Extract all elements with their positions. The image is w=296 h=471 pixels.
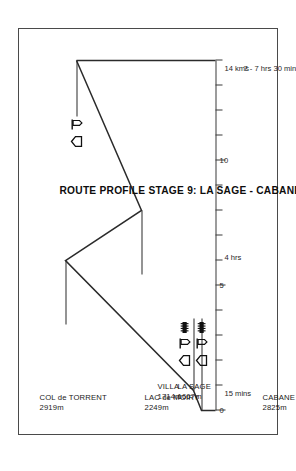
x-tick-4 <box>215 309 222 310</box>
signpost-icon <box>177 336 191 350</box>
mountain-hut-icon <box>176 352 192 368</box>
point-label-cabane-de-moiry: CABANE de MOIRY 2825m <box>262 392 296 411</box>
x-tick-6 <box>215 259 222 260</box>
chart-stage: 0 5 10 15 mins 4 hrs 14 kms 7 - 7 hrs 30… <box>18 28 278 435</box>
col-de-torrent-altitude: 2919m <box>39 402 106 412</box>
x-tick-14 <box>215 59 222 60</box>
mountain-hut-icon <box>193 352 209 368</box>
annotation-15-mins: 15 mins <box>224 388 251 397</box>
x-tick-1 <box>215 384 222 385</box>
lac-de-moiry-altitude: 2249m <box>144 402 199 412</box>
col-de-torrent-name: COL de TORRENT <box>39 392 106 402</box>
lac-de-moiry-name: LAC de MOIRY <box>144 392 199 402</box>
point-label-lac-de-moiry: LAC de MOIRY 2249m <box>144 392 199 411</box>
x-tick-7 <box>215 234 222 235</box>
signpost-icon <box>69 117 83 131</box>
bus-stop-icon <box>177 320 191 334</box>
leader-cabane-de-moiry <box>76 60 77 116</box>
annotation-4-hrs: 4 hrs <box>224 252 241 261</box>
signpost-icon <box>194 336 208 350</box>
chart-title: ROUTE PROFILE STAGE 9: LA SAGE - CABANE … <box>59 184 296 195</box>
cabane-de-moiry-altitude: 2825m <box>262 402 296 412</box>
x-tick-label-10: 10 <box>219 155 228 164</box>
profile-polyline <box>19 29 277 434</box>
x-tick-3 <box>215 334 222 335</box>
x-tick-8 <box>215 209 222 210</box>
leader-col-de-torrent <box>65 260 66 324</box>
point-label-col-de-torrent: COL de TORRENT 2919m <box>39 392 106 411</box>
cabane-de-moiry-name: CABANE de MOIRY <box>262 392 296 402</box>
x-tick-13 <box>215 84 222 85</box>
x-tick-label-5: 5 <box>219 280 223 289</box>
x-tick-12 <box>215 109 222 110</box>
x-tick-label-0: 0 <box>219 405 223 414</box>
mountain-hut-icon <box>68 133 84 149</box>
x-tick-11 <box>215 134 222 135</box>
x-tick-2 <box>215 359 222 360</box>
leader-lac-de-moiry <box>141 210 142 274</box>
la-sage-name: LA SAGE <box>177 381 211 391</box>
rotated-canvas: 0 5 10 15 mins 4 hrs 14 kms 7 - 7 hrs 30… <box>19 29 277 434</box>
bus-stop-icon <box>194 320 208 334</box>
elevation-plot: 0 5 10 15 mins 4 hrs 14 kms 7 - 7 hrs 30… <box>19 29 277 434</box>
figure-page: 0 5 10 15 mins 4 hrs 14 kms 7 - 7 hrs 30… <box>0 0 296 471</box>
annotation-duration: 7 - 7 hrs 30 mins <box>243 63 296 72</box>
villa-name: VILLA <box>157 381 181 391</box>
